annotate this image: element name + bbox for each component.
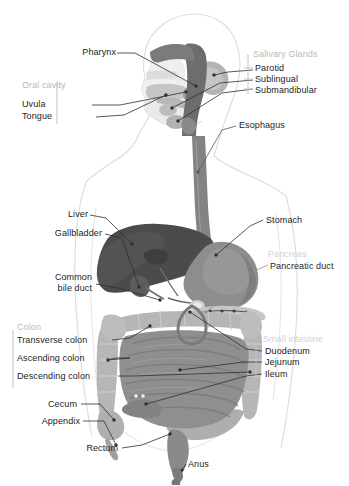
- label-group-small-intestine: Small intestine: [263, 334, 323, 345]
- label-group-colon: Colon: [17, 322, 41, 333]
- anatomy-illustration: [0, 0, 349, 486]
- label-tongue: Tongue: [22, 111, 52, 122]
- label-common-bile-duct-line2: bile duct: [34, 283, 92, 294]
- label-sublingual: Sublingual: [255, 74, 298, 85]
- label-ascending-colon: Ascending colon: [17, 353, 85, 364]
- label-esophagus: Esophagus: [239, 120, 285, 131]
- label-rectum: Rectum: [62, 443, 118, 454]
- label-anus: Anus: [188, 459, 209, 470]
- label-uvula: Uvula: [22, 99, 46, 110]
- label-group-oral-cavity: Oral cavity: [22, 80, 66, 91]
- label-jejunum: Jejunum: [265, 357, 300, 368]
- head-structures: [141, 44, 228, 137]
- label-descending-colon: Descending colon: [17, 371, 90, 382]
- label-submandibular: Submandibular: [255, 85, 317, 96]
- label-pharynx: Pharynx: [58, 47, 116, 58]
- label-duodenum: Duodenum: [265, 346, 310, 357]
- label-liver: Liver: [30, 209, 88, 220]
- label-appendix: Appendix: [22, 416, 80, 427]
- label-group-salivary-glands: Salivary Glands: [253, 49, 318, 60]
- label-cecum: Cecum: [22, 399, 77, 410]
- label-group-pancreas: Pancreas: [268, 249, 307, 260]
- label-ileum: Ileum: [265, 369, 288, 380]
- digestive-system-figure: Pharynx Oral cavity Uvula Tongue Liver G…: [0, 0, 349, 486]
- label-stomach: Stomach: [266, 215, 302, 226]
- label-gallbladder: Gallbladder: [18, 228, 102, 239]
- label-transverse-colon: Transverse colon: [17, 335, 87, 346]
- label-pancreatic-duct: Pancreatic duct: [270, 261, 334, 272]
- label-common-bile-duct-line1: Common: [34, 272, 92, 283]
- rectum-anus: [167, 430, 189, 486]
- label-parotid: Parotid: [255, 63, 284, 74]
